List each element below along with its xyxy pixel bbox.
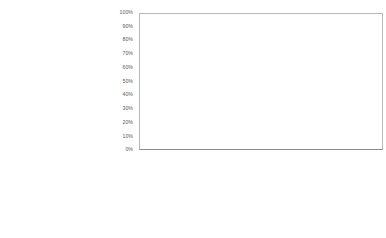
y-axis-tick-label: 60% (122, 65, 133, 70)
stacked-bar-chart: 100%90%80%70%60%50%40%30%20%10%0% (0, 0, 386, 152)
bars-container (140, 14, 382, 150)
plot-area (139, 13, 383, 151)
y-axis-tick-label: 50% (122, 79, 133, 84)
y-axis-tick-label: 20% (122, 120, 133, 125)
y-axis: 100%90%80%70%60%50%40%30%20%10%0% (100, 8, 136, 152)
y-axis-tick-label: 0% (125, 147, 133, 152)
y-axis-tick-label: 10% (122, 134, 133, 139)
chart-figure: 100%90%80%70%60%50%40%30%20%10%0% (0, 0, 386, 238)
y-axis-tick-label: 80% (122, 37, 133, 42)
y-axis-tick-label: 30% (122, 106, 133, 111)
y-axis-tick-label: 100% (120, 10, 133, 15)
y-axis-tick-label: 40% (122, 92, 133, 97)
y-axis-tick-label: 90% (122, 24, 133, 29)
y-axis-tick-label: 70% (122, 51, 133, 56)
